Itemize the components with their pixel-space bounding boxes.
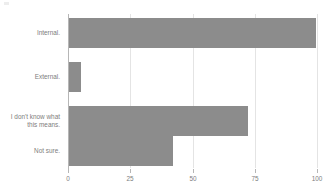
y-axis-line — [68, 14, 69, 169]
category-label-i-dont-know: I don't know what this means. — [0, 106, 63, 136]
category-label-external: External. — [0, 62, 63, 92]
bar-chart: Internal. External. I don't know what th… — [0, 0, 332, 191]
tick-label-75: 75 — [240, 175, 270, 183]
tick-label-0: 0 — [53, 175, 83, 183]
tick-mark-0 — [68, 169, 69, 173]
gridline-100 — [317, 14, 318, 168]
tick-label-100: 100 — [302, 175, 332, 183]
category-label-text: External. — [35, 73, 63, 81]
tick-label-25: 25 — [115, 175, 145, 183]
tick-mark-75 — [255, 169, 256, 173]
bar-external[interactable] — [68, 62, 81, 92]
tick-mark-100 — [317, 169, 318, 173]
category-label-text: Not sure. — [34, 147, 63, 155]
corner-artifact — [4, 2, 9, 5]
bar-internal[interactable] — [68, 18, 316, 48]
category-label-text: I don't know what this means. — [11, 113, 63, 129]
bar-not-sure[interactable] — [68, 136, 173, 166]
tick-mark-25 — [130, 169, 131, 173]
category-label-internal: Internal. — [0, 18, 63, 48]
category-label-text: Internal. — [37, 29, 63, 37]
bar-i-dont-know-what-this-means[interactable] — [68, 106, 248, 136]
tick-mark-50 — [193, 169, 194, 173]
plot-area — [68, 14, 318, 168]
category-label-not-sure: Not sure. — [0, 136, 63, 166]
tick-label-50: 50 — [178, 175, 208, 183]
